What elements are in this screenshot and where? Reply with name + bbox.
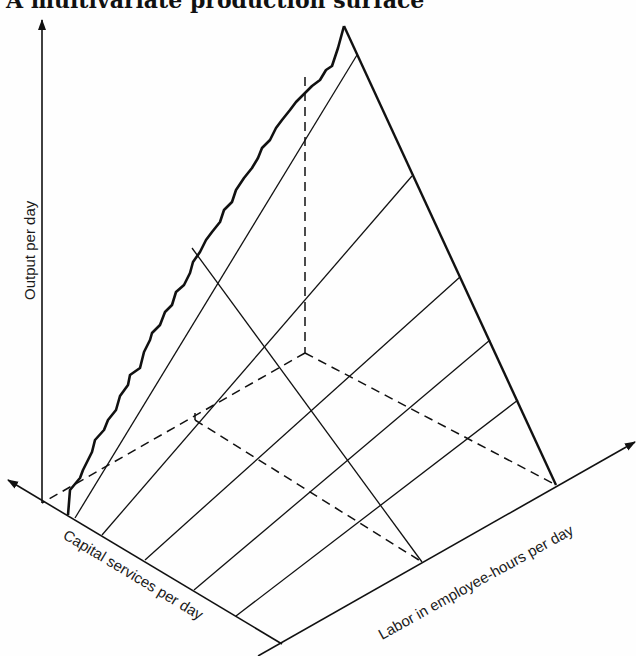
- production-surface-diagram: Output per day Capital services per day …: [0, 0, 636, 656]
- surface-transverse-line: [192, 248, 422, 562]
- capital-axis: [8, 480, 282, 644]
- fan-line: [145, 277, 460, 560]
- dashed-line: [42, 353, 305, 503]
- fan-line: [102, 176, 412, 535]
- surface-wavy-edge: [68, 26, 344, 515]
- capital-axis-label: Capital services per day: [60, 526, 206, 623]
- surface-right-edge: [344, 26, 556, 485]
- output-axis-label: Output per day: [21, 200, 38, 300]
- diagram-canvas: A multivariate production surface Output…: [0, 0, 636, 656]
- dashed-line: [195, 420, 422, 562]
- surface-fan-lines: [75, 55, 518, 616]
- labor-axis: [258, 442, 635, 656]
- fan-line: [75, 55, 357, 518]
